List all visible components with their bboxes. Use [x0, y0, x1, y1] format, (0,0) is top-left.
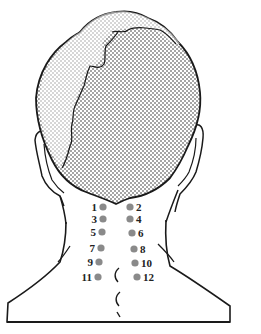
point-label: 1 — [92, 201, 98, 213]
point-dot — [131, 259, 138, 266]
point-dot — [97, 244, 104, 251]
point-dot — [133, 273, 140, 280]
point-label: 10 — [141, 257, 153, 269]
point-dot — [95, 258, 102, 265]
point-label: 2 — [136, 201, 142, 213]
point-label: 4 — [136, 213, 142, 225]
point-dot — [128, 229, 135, 236]
point-dot — [94, 273, 101, 280]
point-dot — [130, 245, 137, 252]
point-label: 7 — [90, 242, 96, 254]
point-dot — [99, 215, 106, 222]
point-dot — [126, 215, 133, 222]
point-dot — [98, 228, 105, 235]
point-label: 5 — [91, 226, 97, 238]
point-label: 12 — [143, 271, 155, 283]
point-label: 8 — [140, 243, 146, 255]
point-1: 1 — [92, 201, 107, 213]
head-neck-diagram: 123456789101112 — [0, 0, 261, 334]
point-dot — [126, 203, 133, 210]
point-label: 6 — [138, 227, 144, 239]
point-dot — [99, 203, 106, 210]
shoulders-outline — [7, 220, 230, 322]
point-label: 3 — [92, 213, 98, 225]
point-2: 2 — [126, 201, 142, 213]
point-label: 9 — [88, 256, 94, 268]
point-label: 11 — [82, 271, 92, 283]
